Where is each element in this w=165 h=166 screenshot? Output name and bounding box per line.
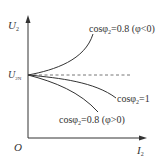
rated-voltage-subscript: 2N [15,76,21,81]
curve-label-prefix: cosφ [89,23,108,34]
curve-label-prefix: cosφ [117,93,136,104]
curve-label-rest: =0.8 (φ<0) [111,23,155,34]
origin-label: O [14,142,22,153]
x-axis-arrow-icon [139,136,147,141]
x-axis-subscript: 2 [141,151,144,157]
rated-voltage-label: U2N [8,70,21,81]
curve-label-resistive: cosφ2=1 [117,94,150,105]
curve-label-rest: =1 [139,93,150,104]
y-axis-arrow-icon [26,15,31,23]
curve-label-rest: =0.8 (φ>0) [81,114,125,125]
y-axis-symbol: U [8,19,16,31]
curve-label-prefix: cosφ [59,114,78,125]
curve-label-inductive: cosφ2=0.8 (φ>0) [59,115,125,126]
curve-capacitive [28,34,93,75]
y-axis-label: U2 [8,20,19,32]
curve-inductive [28,75,98,112]
x-axis-label: I2 [137,145,144,157]
y-axis-subscript: 2 [16,26,19,32]
curve-label-capacitive: cosφ2=0.8 (φ<0) [89,24,155,35]
